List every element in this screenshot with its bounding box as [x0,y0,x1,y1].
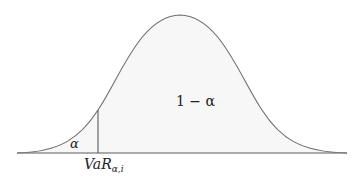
var-label-main: VaR [84,156,112,172]
body-probability-label: 1 − α [176,93,216,109]
var-label: VaRα,i [84,156,124,174]
var-diagram: α 1 − α VaRα,i [0,0,360,180]
body-probability-text: 1 − α [176,93,216,109]
tail-probability-label: α [70,136,79,151]
var-label-subscript: α,i [112,164,124,174]
area-under-curve [17,15,347,153]
